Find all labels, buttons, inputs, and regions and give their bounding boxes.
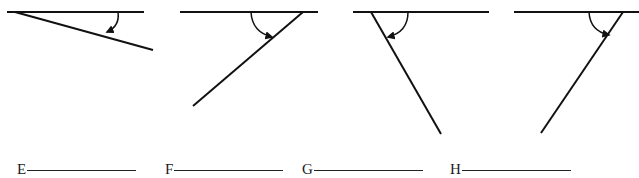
answer-label-h: H: [450, 160, 461, 178]
answer-blank-h[interactable]: [462, 170, 571, 171]
answer-f: F: [165, 160, 283, 178]
answer-g: G: [302, 160, 423, 178]
answer-h: H: [450, 160, 571, 178]
answer-e: E: [17, 160, 136, 178]
answer-blank-f[interactable]: [174, 170, 283, 171]
answer-label-f: F: [165, 160, 173, 178]
answer-blank-e[interactable]: [27, 170, 136, 171]
curved-arrow-icon: [589, 12, 609, 35]
curved-arrow-icon: [251, 12, 272, 37]
angle-figure-g: [353, 12, 489, 134]
curved-arrow-icon: [388, 12, 408, 37]
curved-arrow-icon: [107, 12, 118, 32]
figures-layer: [7, 12, 639, 134]
angle-diagrams: [0, 0, 639, 178]
angle-ray: [15, 12, 153, 50]
answer-label-e: E: [17, 160, 26, 178]
answer-label-g: G: [302, 160, 313, 178]
angle-figure-h: [514, 12, 639, 133]
answer-blank-g[interactable]: [314, 170, 423, 171]
angle-ray: [193, 12, 303, 106]
angle-ray: [371, 12, 441, 134]
angle-figure-f: [180, 12, 318, 106]
angle-figure-e: [7, 12, 153, 50]
angle-ray: [541, 12, 623, 133]
